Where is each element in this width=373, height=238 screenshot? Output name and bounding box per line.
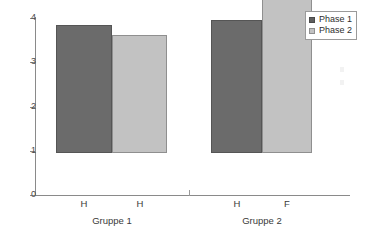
- legend-swatch-icon: [309, 28, 315, 34]
- legend-item-phase2[interactable]: Phase 2: [309, 25, 352, 36]
- bar-gruppe2-h-phase1[interactable]: [211, 20, 262, 153]
- x-group-label-1: Gruppe 1: [72, 216, 152, 226]
- x-group-separator: [189, 190, 190, 196]
- bar-chart: 4 3 2 1 0 H H H F Gruppe 1 Gruppe 2 P: [0, 0, 373, 238]
- scan-artifact: [340, 80, 344, 85]
- x-group-label-2: Gruppe 2: [222, 216, 302, 226]
- legend-item-phase1[interactable]: Phase 1: [309, 14, 352, 25]
- legend-label: Phase 1: [319, 15, 352, 24]
- scan-artifact: [340, 67, 344, 72]
- x-tick-label-4: F: [267, 199, 307, 209]
- legend-label: Phase 2: [319, 26, 352, 35]
- legend: Phase 1 Phase 2: [305, 11, 357, 40]
- legend-swatch-icon: [309, 17, 315, 23]
- bar-gruppe1-h-phase2[interactable]: [112, 35, 167, 153]
- x-tick-label-1: H: [64, 199, 104, 209]
- x-tick-label-2: H: [120, 199, 160, 209]
- bar-gruppe1-h-phase1[interactable]: [56, 25, 112, 153]
- x-tick-label-3: H: [217, 199, 257, 209]
